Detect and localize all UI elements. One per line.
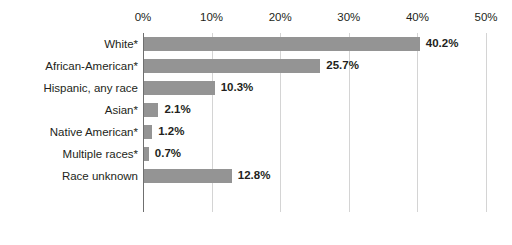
bar-value-label: 12.8%	[238, 167, 271, 184]
bar	[144, 125, 152, 139]
category-label: Asian*	[0, 99, 138, 121]
bar	[144, 37, 420, 51]
x-tick-label: 0%	[135, 11, 152, 23]
bar-row: 0.7%	[143, 143, 512, 165]
category-label: Multiple races*	[0, 143, 138, 165]
bar-row: 12.8%	[143, 165, 512, 187]
bar	[144, 147, 149, 161]
bar	[144, 59, 320, 73]
bar-value-label: 40.2%	[426, 35, 459, 52]
bar-row: 2.1%	[143, 99, 512, 121]
bar-chart: 0%10%20%30%40%50% White*African-American…	[0, 0, 512, 245]
x-tick-label: 50%	[474, 11, 497, 23]
bar	[144, 81, 215, 95]
category-axis-labels: White*African-American*Hispanic, any rac…	[0, 33, 138, 212]
bar	[144, 103, 158, 117]
x-tick-label: 40%	[406, 11, 429, 23]
category-label: White*	[0, 33, 138, 55]
category-label: Race unknown	[0, 165, 138, 187]
category-label: Hispanic, any race	[0, 77, 138, 99]
bar-row: 25.7%	[143, 55, 512, 77]
bar-row: 10.3%	[143, 77, 512, 99]
bar-value-label: 1.2%	[158, 123, 184, 140]
bar-value-label: 2.1%	[164, 101, 190, 118]
x-axis-tick-labels: 0%10%20%30%40%50%	[0, 11, 512, 27]
category-label: African-American*	[0, 55, 138, 77]
bar-row: 1.2%	[143, 121, 512, 143]
category-label: Native American*	[0, 121, 138, 143]
bar	[144, 169, 232, 183]
bar-value-label: 10.3%	[221, 79, 254, 96]
x-tick-label: 10%	[200, 11, 223, 23]
x-tick-label: 20%	[269, 11, 292, 23]
bars-layer: 40.2%25.7%10.3%2.1%1.2%0.7%12.8%	[143, 33, 512, 212]
bar-row: 40.2%	[143, 33, 512, 55]
bar-value-label: 25.7%	[326, 57, 359, 74]
x-tick-label: 30%	[337, 11, 360, 23]
bar-value-label: 0.7%	[155, 145, 181, 162]
